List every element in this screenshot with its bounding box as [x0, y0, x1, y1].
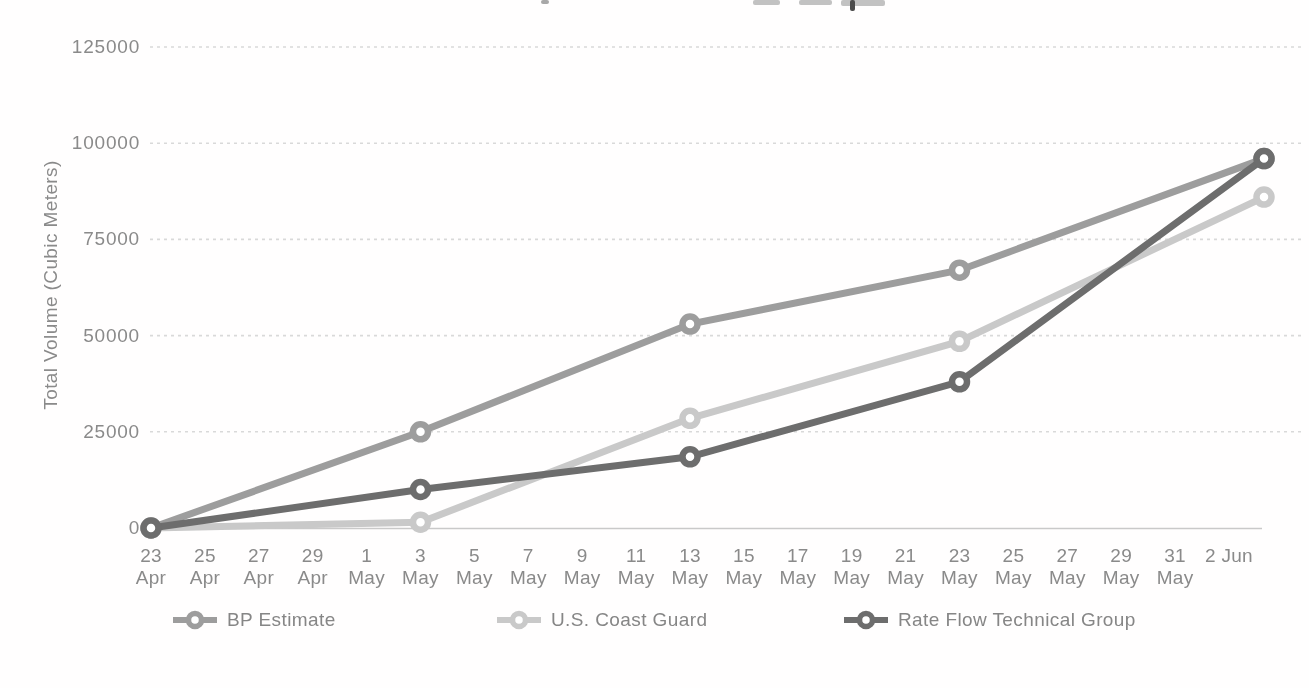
data-point-marker [952, 374, 967, 389]
data-point-marker [683, 317, 698, 332]
x-axis-tick-label: 9May [552, 545, 612, 589]
x-axis-tick-label: 29May [1091, 545, 1151, 589]
series-line-2 [151, 159, 1264, 528]
x-axis-tick-label: 5May [444, 545, 504, 589]
x-axis-tick-label: 31May [1145, 545, 1205, 589]
x-axis-tick-label: 27Apr [229, 545, 289, 589]
legend-label: BP Estimate [227, 609, 336, 631]
legend-item-rate-flow-technical-group: Rate Flow Technical Group [843, 606, 1136, 634]
series-line-0 [151, 159, 1264, 528]
y-axis-tick-label: 50000 [38, 325, 140, 347]
data-point-marker [413, 424, 428, 439]
y-axis-tick-label: 100000 [38, 132, 140, 154]
data-point-marker [1257, 190, 1272, 205]
legend-label: Rate Flow Technical Group [898, 609, 1136, 631]
line-series-marker-icon [843, 607, 889, 633]
line-series-marker-icon [496, 607, 542, 633]
x-axis-tick-label: 27May [1037, 545, 1097, 589]
x-axis-tick-label: 17May [768, 545, 828, 589]
legend-item-us-coast-guard: U.S. Coast Guard [496, 606, 707, 634]
legend-label: U.S. Coast Guard [551, 609, 707, 631]
data-point-marker [952, 334, 967, 349]
chart-page: Total Volume (Cubic Meters) 025000500007… [0, 0, 1309, 688]
x-axis-tick-label: 3May [391, 545, 451, 589]
x-axis-tick-label: 7May [498, 545, 558, 589]
legend-item-bp-estimate: BP Estimate [172, 606, 336, 634]
y-axis-tick-label: 0 [38, 517, 140, 539]
line-series-marker-icon [172, 607, 218, 633]
x-axis-tick-label: 25May [983, 545, 1043, 589]
data-point-marker [144, 521, 159, 536]
data-point-marker [683, 411, 698, 426]
data-point-marker [952, 263, 967, 278]
x-axis-tick-label: 1May [337, 545, 397, 589]
y-axis-tick-label: 125000 [38, 36, 140, 58]
x-axis-tick-label: 13May [660, 545, 720, 589]
y-axis-tick-label: 25000 [38, 421, 140, 443]
x-axis-tick-label: 15May [714, 545, 774, 589]
x-axis-tick-label: 21May [876, 545, 936, 589]
x-axis-tick-label: 29Apr [283, 545, 343, 589]
data-point-marker [683, 449, 698, 464]
data-point-marker [413, 515, 428, 530]
y-axis-tick-label: 75000 [38, 228, 140, 250]
data-point-marker [1257, 151, 1272, 166]
x-axis-tick-label: 25Apr [175, 545, 235, 589]
x-axis-tick-label: 23Apr [121, 545, 181, 589]
x-axis-tick-label: 11May [606, 545, 666, 589]
data-point-marker [413, 482, 428, 497]
x-axis-tick-label: 23May [930, 545, 990, 589]
x-axis-tick-label: 2 Jun [1199, 545, 1259, 567]
series-line-1 [151, 197, 1264, 528]
x-axis-tick-label: 19May [822, 545, 882, 589]
